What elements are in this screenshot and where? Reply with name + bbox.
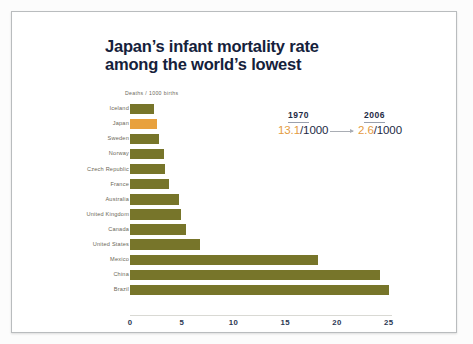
chart-page-frame: Japan’s infant mortality rate among the … [11,11,457,333]
bar-row: Iceland [64,102,424,117]
category-label-china: China [29,271,129,277]
x-axis-tick-10: 10 [229,318,238,327]
x-axis-line [130,315,392,316]
bar-czech-republic [130,164,165,174]
category-label-iceland: Iceland [29,105,129,111]
bar-japan [130,119,157,129]
bar-mexico [130,255,318,265]
bar-china [130,270,380,280]
bar-brazil [130,285,389,295]
bar-row: China [64,268,424,283]
bar-row: Czech Republic [64,162,424,177]
chart-title-line-1: Japan’s infant mortality rate [105,37,319,55]
bar-row: Canada [64,223,424,238]
category-label-japan: Japan [29,120,129,126]
bar-row: Norway [64,147,424,162]
bar-norway [130,149,164,159]
category-label-sweden: Sweden [29,135,129,141]
bar-row: Mexico [64,253,424,268]
bar-united-kingdom [130,209,181,219]
bar-sweden [130,134,159,144]
category-label-mexico: Mexico [29,256,129,262]
bar-australia [130,194,179,204]
category-label-france: France [29,181,129,187]
bar-row: Japan [64,117,424,132]
screenshot-root: Japan’s infant mortality rate among the … [0,0,473,344]
x-axis-tick-0: 0 [128,318,133,327]
bar-row: France [64,177,424,192]
chart-title: Japan’s infant mortality rate among the … [105,38,425,73]
category-label-norway: Norway [29,150,129,156]
bar-row: United Kingdom [64,208,424,223]
x-axis-tick-25: 25 [384,318,393,327]
category-label-australia: Australia [29,196,129,202]
bar-united-states [130,239,200,249]
x-axis-tick-5: 5 [179,318,184,327]
category-label-united-kingdom: United Kingdom [29,211,129,217]
chart-subtitle-unit: Deaths / 1000 births [125,90,178,96]
bar-row: Australia [64,193,424,208]
bar-row: Sweden [64,132,424,147]
bar-canada [130,224,186,234]
bar-iceland [130,104,154,114]
x-axis: 0510152025 [64,315,424,329]
category-label-czech-republic: Czech Republic [29,166,129,172]
x-axis-tick-15: 15 [281,318,290,327]
bar-france [130,179,169,189]
bar-row: United States [64,238,424,253]
x-axis-tick-20: 20 [332,318,341,327]
bar-row: Brazil [64,283,424,298]
category-label-united-states: United States [29,241,129,247]
chart-title-line-2: among the world’s lowest [105,55,301,73]
category-label-canada: Canada [29,226,129,232]
category-label-brazil: Brazil [29,286,129,292]
bar-chart-plot-area: IcelandJapanSwedenNorwayCzech RepublicFr… [64,102,424,317]
